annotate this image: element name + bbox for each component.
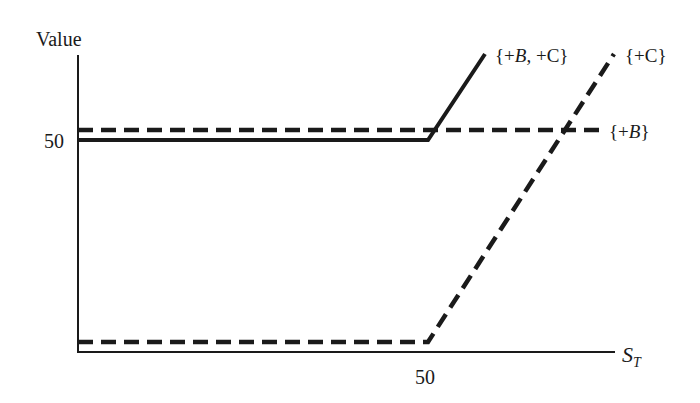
x-axis-label-subscript: T — [633, 355, 642, 370]
series-label-plus-b-plus-c: {+B, +C} — [495, 45, 568, 66]
x-axis-label-main: S — [622, 342, 633, 367]
series-plus-b-plus-c-line — [78, 54, 485, 140]
series-label-plus-c: {+C} — [625, 45, 667, 66]
series-label-plus-b: {+B} — [609, 121, 650, 142]
series-plus-c-line — [78, 54, 614, 342]
x-tick-label-50: 50 — [415, 366, 435, 388]
x-axis-label: ST — [622, 342, 642, 370]
payoff-chart: Value 50 50 ST {+B, +C} {+B} {+C} — [0, 0, 700, 403]
y-axis-label: Value — [36, 28, 82, 50]
y-tick-label-50: 50 — [44, 130, 64, 152]
